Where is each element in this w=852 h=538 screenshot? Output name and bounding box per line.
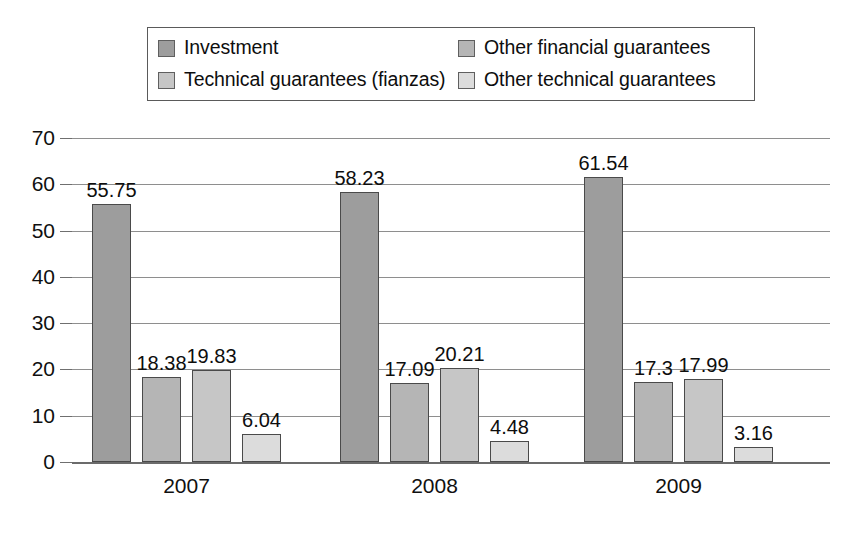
bar-value-label: 17.09 — [384, 358, 434, 381]
legend-item-other-technical-guarantees: Other technical guarantees — [458, 70, 746, 90]
y-axis-label-70: 70 — [32, 126, 55, 150]
bar: 3.16 — [734, 447, 773, 462]
gridline-30 — [72, 323, 830, 324]
y-axis-tick-50 — [60, 231, 72, 232]
y-axis-label-30: 30 — [32, 311, 55, 335]
y-axis-tick-10 — [60, 416, 72, 417]
bar-value-label: 19.83 — [186, 345, 236, 368]
x-axis-label-2008: 2008 — [411, 474, 458, 498]
gridline-70 — [72, 138, 830, 139]
bar-value-label: 4.48 — [490, 416, 529, 439]
bar: 17.3 — [634, 382, 673, 462]
bar: 17.99 — [684, 379, 723, 462]
bar-value-label: 58.23 — [334, 167, 384, 190]
bar: 20.21 — [440, 368, 479, 462]
y-axis-label-20: 20 — [32, 357, 55, 381]
legend-swatch-other-technical-guarantees — [458, 72, 475, 89]
bar: 6.04 — [242, 434, 281, 462]
bar-value-label: 61.54 — [578, 152, 628, 175]
bar: 58.23 — [340, 192, 379, 462]
legend-item-technical-guarantees: Technical guarantees (fianzas) — [158, 70, 458, 90]
y-axis-label-50: 50 — [32, 219, 55, 243]
y-axis-tick-60 — [60, 184, 72, 185]
legend-item-other-financial-guarantees: Other financial guarantees — [458, 38, 746, 58]
bar-value-label: 20.21 — [434, 343, 484, 366]
bar: 17.09 — [390, 383, 429, 462]
legend-swatch-investment — [158, 40, 175, 57]
y-axis-label-10: 10 — [32, 404, 55, 428]
bar-chart: Investment Other financial guarantees Te… — [0, 0, 852, 538]
bar-value-label: 17.99 — [678, 354, 728, 377]
y-axis-tick-40 — [60, 277, 72, 278]
gridline-60 — [72, 184, 830, 185]
bar: 61.54 — [584, 177, 623, 462]
y-axis-label-40: 40 — [32, 265, 55, 289]
legend-label-technical-guarantees: Technical guarantees (fianzas) — [184, 70, 445, 90]
plot-area: 70605040302010055.7518.3819.836.0458.231… — [72, 138, 830, 462]
y-axis-label-0: 0 — [43, 450, 55, 474]
y-axis-tick-70 — [60, 138, 72, 139]
y-axis-tick-20 — [60, 369, 72, 370]
bar-value-label: 17.3 — [634, 357, 673, 380]
bar: 18.38 — [142, 377, 181, 462]
legend-swatch-technical-guarantees — [158, 72, 175, 89]
x-axis-baseline — [72, 462, 830, 464]
bar-value-label: 3.16 — [734, 422, 773, 445]
legend-label-other-technical-guarantees: Other technical guarantees — [484, 70, 716, 90]
y-axis-tick-30 — [60, 323, 72, 324]
bar-value-label: 18.38 — [136, 352, 186, 375]
legend-item-investment: Investment — [158, 38, 458, 58]
bar-value-label: 6.04 — [242, 409, 281, 432]
x-axis-label-2007: 2007 — [163, 474, 210, 498]
legend-swatch-other-financial-guarantees — [458, 40, 475, 57]
bar: 4.48 — [490, 441, 529, 462]
x-axis-label-2009: 2009 — [655, 474, 702, 498]
bar: 19.83 — [192, 370, 231, 462]
legend-label-investment: Investment — [184, 38, 278, 58]
y-axis-tick-0 — [60, 462, 72, 463]
gridline-40 — [72, 277, 830, 278]
bar-value-label: 55.75 — [86, 179, 136, 202]
bar: 55.75 — [92, 204, 131, 462]
y-axis-label-60: 60 — [32, 172, 55, 196]
gridline-50 — [72, 231, 830, 232]
legend-label-other-financial-guarantees: Other financial guarantees — [484, 38, 710, 58]
chart-legend: Investment Other financial guarantees Te… — [147, 27, 755, 101]
